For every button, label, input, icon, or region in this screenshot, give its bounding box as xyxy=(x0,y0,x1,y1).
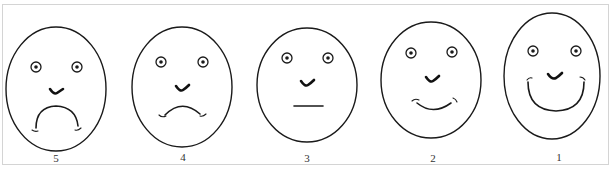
face-label-3: 3 xyxy=(304,153,310,164)
left-eye-icon xyxy=(406,48,416,58)
left-eye-icon xyxy=(282,53,292,63)
right-eye-icon xyxy=(571,46,581,56)
left-eye-icon xyxy=(31,62,41,72)
right-eye-icon xyxy=(447,47,457,57)
faces-scale xyxy=(0,0,613,173)
right-eye-icon xyxy=(198,57,208,67)
face-label-1: 1 xyxy=(556,152,562,163)
right-eye-icon xyxy=(72,62,82,72)
right-eye-icon xyxy=(323,53,333,63)
left-eye-icon xyxy=(156,57,166,67)
face-label-2: 2 xyxy=(430,153,436,164)
left-eye-icon xyxy=(528,46,538,56)
face-label-4: 4 xyxy=(180,152,186,163)
face-3-neutral xyxy=(257,28,357,142)
face-label-5: 5 xyxy=(53,153,59,164)
face-outline xyxy=(6,27,106,151)
face-1-very-happy xyxy=(504,13,600,139)
face-5-very-sad xyxy=(6,27,106,151)
face-2-happy xyxy=(381,22,481,138)
face-outline xyxy=(132,27,232,147)
face-outline xyxy=(504,13,600,139)
face-4-sad xyxy=(132,27,232,147)
face-outline xyxy=(381,22,481,138)
